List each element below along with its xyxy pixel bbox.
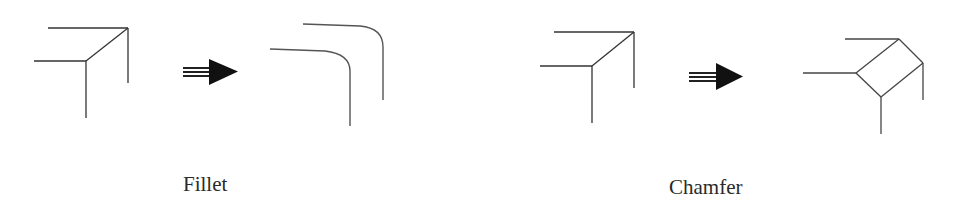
chamfer-before-corner [540,32,634,123]
chamfer-label: Chamfer [669,175,742,200]
fillet-label: Fillet [183,172,227,197]
fillet-after-rounded [270,24,383,126]
chamfer-after-beveled [803,39,923,134]
fillet-before-corner [34,28,128,118]
diagram-canvas [0,0,956,214]
fillet-arrow-icon [183,59,238,85]
chamfer-arrow-icon [689,63,743,90]
